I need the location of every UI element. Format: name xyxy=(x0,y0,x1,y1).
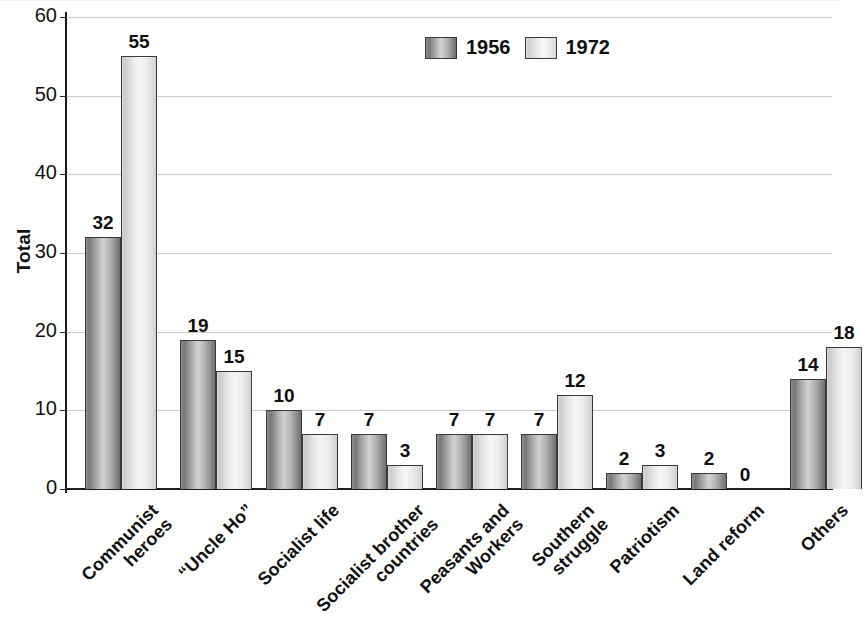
legend-swatch-1956-icon xyxy=(425,37,457,59)
scan-edge xyxy=(0,0,839,1)
bar xyxy=(85,237,121,489)
y-axis-tick-label: 60 xyxy=(9,4,57,27)
bar-value-label: 15 xyxy=(206,346,262,368)
bar xyxy=(642,465,678,489)
bar-value-label: 7 xyxy=(341,409,397,431)
y-axis-tick-label: 10 xyxy=(9,397,57,420)
legend-item-1956: 1956 xyxy=(425,36,511,59)
gridline xyxy=(67,253,832,254)
bar xyxy=(606,473,642,489)
gridline xyxy=(67,174,832,175)
y-axis-tick-label: 20 xyxy=(9,319,57,342)
y-axis-tick xyxy=(60,253,67,254)
bar-value-label: 7 xyxy=(292,409,348,431)
legend-swatch-1972-icon xyxy=(525,37,557,59)
bar xyxy=(302,434,338,489)
y-axis-tick-label: 50 xyxy=(9,83,57,106)
gridline xyxy=(67,96,832,97)
y-axis-tick xyxy=(60,489,67,490)
bar-value-label: 7 xyxy=(462,409,518,431)
bar xyxy=(216,371,252,489)
y-axis-tick xyxy=(60,410,67,411)
legend: 1956 1972 xyxy=(425,36,610,59)
bar xyxy=(436,434,472,489)
gridline xyxy=(67,17,832,18)
bar xyxy=(121,56,157,489)
bar-value-label: 55 xyxy=(111,31,167,53)
y-axis-tick xyxy=(60,17,67,18)
bar xyxy=(790,379,826,489)
y-axis-tick xyxy=(60,96,67,97)
bar-value-label: 12 xyxy=(547,370,603,392)
bar-value-label: 3 xyxy=(377,440,433,462)
y-axis-tick xyxy=(60,174,67,175)
bar-value-label: 10 xyxy=(256,385,312,407)
y-axis-tick-label: 0 xyxy=(9,476,57,499)
plot-area: 010203040506032551915107737771223201418 xyxy=(67,17,832,489)
bar xyxy=(387,465,423,489)
bar-value-label: 18 xyxy=(816,322,866,344)
bar xyxy=(826,347,862,489)
bar-value-label: 3 xyxy=(632,440,688,462)
bar-value-label: 0 xyxy=(717,464,773,486)
bar xyxy=(521,434,557,489)
y-axis-tick xyxy=(60,332,67,333)
legend-item-1972: 1972 xyxy=(525,36,611,59)
bar-value-label: 19 xyxy=(170,315,226,337)
y-axis-tick-label: 40 xyxy=(9,161,57,184)
legend-label-1956: 1956 xyxy=(466,36,511,59)
bar xyxy=(557,395,593,489)
bar xyxy=(472,434,508,489)
legend-label-1972: 1972 xyxy=(566,36,611,59)
y-axis-tick-label: 30 xyxy=(9,240,57,263)
